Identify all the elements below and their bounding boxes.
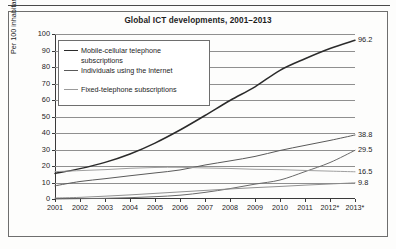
x-tick-mark [80, 199, 81, 202]
x-tick-mark [155, 199, 156, 202]
x-tick-mark [280, 199, 281, 202]
y-tick-label: 90 [28, 47, 50, 54]
y-tick-label: 50 [28, 113, 50, 120]
x-tick-label: 2003 [92, 204, 118, 211]
series-line [55, 183, 355, 198]
y-tick-label: 80 [28, 63, 50, 70]
x-tick-label: 2009 [242, 204, 268, 211]
x-tick-mark [180, 199, 181, 202]
x-tick-label: 2010 [267, 204, 293, 211]
x-tick-mark [355, 199, 356, 202]
y-tick-label: 30 [28, 146, 50, 153]
legend-label: Individuals using the Internet [81, 66, 173, 76]
y-tick-label: 0 [28, 195, 50, 202]
y-tick-label: 10 [28, 179, 50, 186]
x-tick-label: 2005 [142, 204, 168, 211]
x-tick-label: 2012* [317, 204, 343, 211]
chart-legend: Mobile-cellular telephone subscriptionsI… [58, 40, 210, 106]
page-root: Global ICT developments, 2001–2013 Per 1… [0, 0, 396, 249]
y-tick-mark [52, 133, 55, 134]
legend-item: Mobile-cellular telephone subscriptions [64, 46, 161, 65]
x-tick-label: 2011 [292, 204, 318, 211]
series-line [55, 150, 355, 199]
y-tick-mark [52, 84, 55, 85]
y-tick-mark [52, 117, 55, 118]
y-tick-mark [52, 67, 55, 68]
x-tick-label: 2002 [67, 204, 93, 211]
series-end-label: 38.8 [358, 131, 372, 138]
x-tick-mark [255, 199, 256, 202]
legend-label: Mobile-cellular telephone subscriptions [81, 46, 161, 65]
series-line [55, 135, 355, 186]
legend-swatch-icon [64, 85, 78, 94]
page-top-rule [8, 5, 390, 6]
x-tick-label: 2013* [342, 204, 368, 211]
series-end-label: 16.5 [358, 168, 372, 175]
x-tick-label: 2006 [167, 204, 193, 211]
y-tick-mark [52, 34, 55, 35]
series-end-label: 9.8 [358, 179, 368, 186]
x-tick-mark [230, 199, 231, 202]
x-tick-label: 2001 [42, 204, 68, 211]
y-tick-mark [52, 166, 55, 167]
y-tick-label: 20 [28, 162, 50, 169]
y-tick-label: 70 [28, 80, 50, 87]
x-tick-mark [130, 199, 131, 202]
page-title: Global ICT developments, 2001–2013 [0, 16, 396, 25]
x-tick-label: 2004 [117, 204, 143, 211]
series-end-label: 96.2 [358, 36, 372, 43]
x-tick-mark [205, 199, 206, 202]
y-tick-label: 100 [28, 30, 50, 37]
y-tick-mark [52, 51, 55, 52]
x-tick-label: 2007 [192, 204, 218, 211]
y-tick-label: 60 [28, 96, 50, 103]
legend-swatch-icon [64, 66, 78, 75]
y-tick-mark [52, 183, 55, 184]
legend-item: Fixed-telephone subscriptions [64, 85, 177, 95]
legend-swatch-icon [64, 46, 78, 55]
y-tick-mark [52, 100, 55, 101]
y-axis-title: Per 100 inhabitants [9, 0, 18, 78]
y-tick-mark [52, 150, 55, 151]
x-tick-mark [55, 199, 56, 202]
legend-label: Fixed-telephone subscriptions [81, 85, 177, 95]
x-tick-mark [330, 199, 331, 202]
x-tick-mark [105, 199, 106, 202]
y-tick-label: 40 [28, 129, 50, 136]
x-tick-mark [305, 199, 306, 202]
x-tick-label: 2008 [217, 204, 243, 211]
series-end-label: 29.5 [358, 146, 372, 153]
legend-item: Individuals using the Internet [64, 66, 173, 76]
